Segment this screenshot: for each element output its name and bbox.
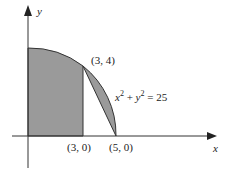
x-axis-arrow-icon bbox=[207, 132, 217, 140]
point-label-3-0: (3, 0) bbox=[67, 141, 91, 154]
circle-region-diagram: y x (3, 4) (3, 0) (5, 0) x2 + y2 = 25 bbox=[0, 0, 225, 174]
y-axis-label: y bbox=[36, 5, 42, 17]
y-axis-arrow-icon bbox=[24, 5, 32, 16]
point-label-3-4: (3, 4) bbox=[91, 54, 115, 67]
shaded-segment-right bbox=[83, 66, 116, 136]
point-label-5-0: (5, 0) bbox=[109, 141, 133, 154]
x-axis-label: x bbox=[212, 142, 218, 154]
shaded-region-left bbox=[28, 48, 83, 136]
circle-equation: x2 + y2 = 25 bbox=[114, 89, 168, 103]
